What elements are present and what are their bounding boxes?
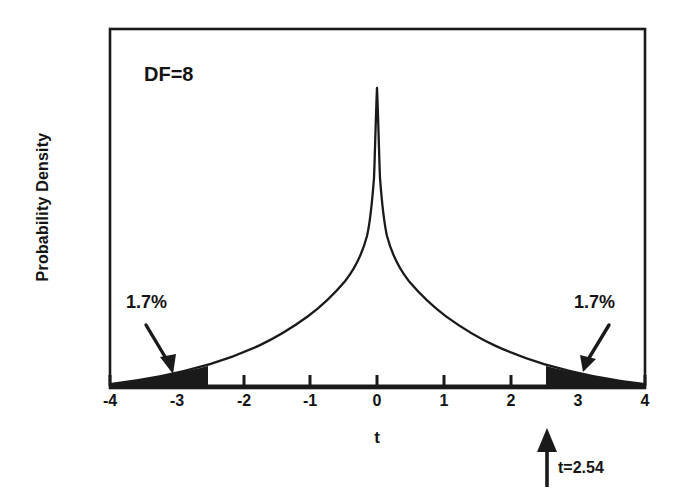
left-tail-arrow-icon — [146, 325, 176, 374]
x-axis-label: t — [347, 428, 407, 448]
x-tick-label-neg1: -1 — [290, 392, 330, 410]
x-tick-label-neg2: -2 — [224, 392, 264, 410]
x-tick-label-neg4: -4 — [90, 392, 130, 410]
right-tail-arrow-icon — [580, 325, 609, 372]
left-tail-percent-label: 1.7% — [126, 292, 167, 313]
x-tick-label-0: 0 — [357, 392, 397, 410]
x-tick-label-3: 3 — [558, 392, 598, 410]
y-axis-label: Probability Density — [34, 102, 52, 312]
plot-canvas — [0, 0, 677, 497]
x-tick-label-neg3: -3 — [157, 392, 197, 410]
density-curve — [110, 88, 645, 384]
x-tick-label-1: 1 — [424, 392, 464, 410]
x-tick-label-4: 4 — [625, 392, 665, 410]
right-tail-percent-label: 1.7% — [574, 292, 615, 313]
degrees-of-freedom-label: DF=8 — [144, 63, 193, 86]
x-tick-label-2: 2 — [491, 392, 531, 410]
critical-value-arrow-icon — [537, 428, 557, 487]
critical-value-label: t=2.54 — [558, 459, 604, 477]
t-distribution-figure: Probability Density — [0, 0, 677, 497]
